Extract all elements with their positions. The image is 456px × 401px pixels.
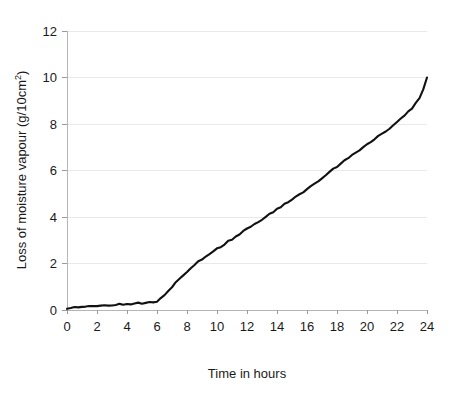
- x-tick-label-6: 6: [153, 319, 160, 334]
- y-tick-label-10: 10: [43, 70, 57, 85]
- y-axis-title-tail: ): [14, 71, 29, 75]
- x-tick-label-2: 2: [93, 319, 100, 334]
- x-tick-label-18: 18: [330, 319, 344, 334]
- x-tick-label-8: 8: [183, 319, 190, 334]
- y-tick-label-0: 0: [50, 303, 57, 318]
- x-tick-label-12: 12: [240, 319, 254, 334]
- x-axis-title: Time in hours: [208, 366, 287, 381]
- y-axis-title-main: Loss of moisture vapour (g/10cm: [14, 80, 29, 269]
- x-tick-label-20: 20: [360, 319, 374, 334]
- x-tick-label-22: 22: [390, 319, 404, 334]
- x-tick-label-0: 0: [63, 319, 70, 334]
- x-tick-label-10: 10: [210, 319, 224, 334]
- y-tick-label-6: 6: [50, 163, 57, 178]
- y-axis-title: Loss of moisture vapour (g/10cm2): [13, 71, 29, 270]
- chart-figure: 024681012141618202224 024681012 Time in …: [0, 0, 456, 401]
- x-tick-label-4: 4: [123, 319, 130, 334]
- x-tick-label-24: 24: [420, 319, 434, 334]
- y-tick-label-8: 8: [50, 117, 57, 132]
- y-tick-label-12: 12: [43, 24, 57, 39]
- x-tick-label-16: 16: [300, 319, 314, 334]
- chart-background: [0, 0, 456, 401]
- x-tick-label-14: 14: [270, 319, 284, 334]
- y-tick-label-4: 4: [50, 210, 57, 225]
- moisture-vapour-loss-line-chart: 024681012141618202224 024681012 Time in …: [0, 0, 456, 401]
- y-tick-label-2: 2: [50, 256, 57, 271]
